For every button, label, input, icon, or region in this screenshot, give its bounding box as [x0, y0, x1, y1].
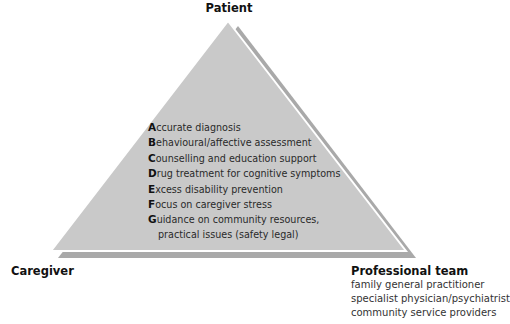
- vertex-label-caregiver: Caregiver: [11, 264, 74, 278]
- abc-text: ocus on caregiver stress: [155, 199, 272, 210]
- abc-care-list: Accurate diagnosis Behavioural/affective…: [148, 120, 340, 242]
- abc-letter: B: [148, 136, 156, 148]
- abc-text: ehavioural/affective assessment: [156, 137, 311, 148]
- abc-letter: D: [148, 167, 157, 179]
- member-item: family general practitioner: [351, 278, 510, 292]
- abc-item-c: Counselling and education support: [148, 151, 340, 166]
- abc-item-b: Behavioural/affective assessment: [148, 135, 340, 150]
- member-item: community service providers: [351, 306, 510, 320]
- abc-letter: G: [148, 213, 157, 225]
- abc-item-a: Accurate diagnosis: [148, 120, 340, 135]
- professional-team-members: family general practitioner specialist p…: [351, 278, 510, 320]
- abc-item-d: Drug treatment for cognitive symptoms: [148, 166, 340, 181]
- vertex-label-professional-team: Professional team: [351, 264, 468, 278]
- member-item: specialist physician/psychiatrist: [351, 292, 510, 306]
- abc-text-continuation: practical issues (safety legal): [148, 228, 340, 242]
- abc-item-e: Excess disability prevention: [148, 182, 340, 197]
- abc-text: ccurate diagnosis: [156, 122, 241, 133]
- abc-text: uidance on community resources,: [157, 214, 320, 225]
- abc-text: xcess disability prevention: [155, 184, 283, 195]
- abc-letter: A: [148, 121, 156, 133]
- abc-text: ounselling and education support: [156, 153, 317, 164]
- abc-item-g: Guidance on community resources,practica…: [148, 212, 340, 242]
- abc-item-f: Focus on caregiver stress: [148, 197, 340, 212]
- abc-text: rug treatment for cognitive symptoms: [157, 168, 341, 179]
- abc-letter: C: [148, 152, 156, 164]
- vertex-label-patient: Patient: [206, 1, 253, 15]
